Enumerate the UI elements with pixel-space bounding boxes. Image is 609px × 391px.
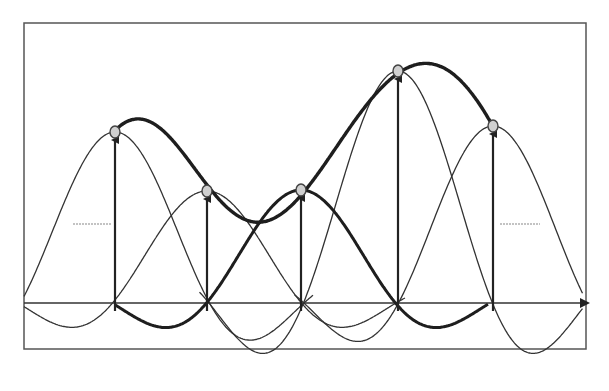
reconstructed-signal bbox=[115, 63, 493, 222]
diagram-canvas bbox=[0, 0, 609, 391]
sample-point-marker bbox=[296, 184, 306, 196]
sinc-kernel-curve bbox=[200, 71, 583, 353]
sample-point-marker bbox=[488, 120, 498, 132]
sample-points bbox=[110, 65, 498, 197]
sample-point-marker bbox=[393, 65, 403, 77]
sinc-kernel-curve bbox=[24, 191, 405, 327]
sinc-interpolation-diagram bbox=[0, 0, 609, 391]
sinc-kernel-curve bbox=[295, 126, 583, 341]
sinc-kernels bbox=[24, 71, 583, 353]
sample-point-marker bbox=[202, 185, 212, 197]
sample-point-marker bbox=[110, 126, 120, 138]
sinc-kernel-curve bbox=[24, 132, 313, 340]
reconstructed-signal-curve bbox=[115, 63, 493, 222]
